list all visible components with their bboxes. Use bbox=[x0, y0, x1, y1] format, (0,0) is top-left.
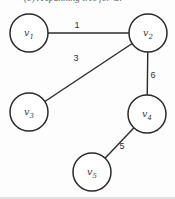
edge-weight-v4-v5: 5 bbox=[119, 141, 124, 151]
edge-weight-v2-v4: 6 bbox=[150, 70, 155, 80]
scan-shadow bbox=[0, 197, 175, 199]
figure-spanning-tree: (b) A spanning tree for G. v1v2v3v4v5136… bbox=[0, 0, 175, 199]
edge-weight-v2-v3: 3 bbox=[73, 53, 78, 63]
edge-weight-v1-v2: 1 bbox=[74, 20, 79, 30]
graph-svg: v1v2v3v4v51365 bbox=[0, 0, 175, 199]
edge-v2-v3 bbox=[29, 33, 148, 112]
